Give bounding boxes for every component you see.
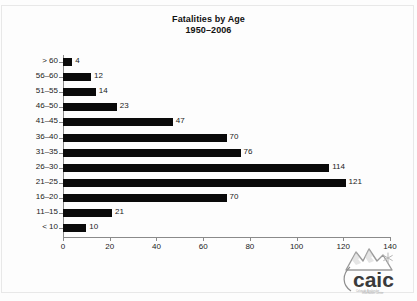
bar [63, 194, 227, 202]
bar-row: < 1010 [63, 221, 390, 236]
x-axis-tick-label: 40 [141, 242, 171, 252]
y-axis-tick [59, 107, 63, 108]
category-label: 46–50 [36, 101, 58, 111]
x-axis-tick-label: 60 [188, 242, 218, 252]
plot-area: > 60456–601251–551446–502341–454736–4070… [63, 55, 390, 237]
page-title: Fatalities by Age [0, 14, 417, 25]
x-axis-line [63, 237, 391, 238]
y-axis-tick [59, 62, 63, 63]
bar-value-label: 76 [244, 147, 253, 157]
bar [63, 134, 227, 142]
bar-value-label: 12 [94, 71, 103, 81]
x-axis-tick [390, 237, 391, 241]
bar-value-label: 21 [115, 207, 124, 217]
y-axis-tick [59, 168, 63, 169]
y-axis-tick [59, 228, 63, 229]
y-axis-tick [59, 213, 63, 214]
bar-row: 56–6012 [63, 70, 390, 85]
y-axis-tick [59, 92, 63, 93]
y-axis-tick [59, 138, 63, 139]
bar [63, 164, 329, 172]
bar [63, 149, 241, 157]
bar-value-label: 121 [349, 177, 362, 187]
bar [63, 224, 86, 232]
category-label: 36–40 [36, 132, 58, 142]
chart-title-block: Fatalities by Age 1950–2006 [0, 14, 417, 36]
x-axis-tick [250, 237, 251, 241]
bar-row: 26–30114 [63, 161, 390, 176]
logo-wordmark: caic [353, 268, 394, 291]
y-axis-tick [59, 153, 63, 154]
bar-value-label: 70 [230, 192, 239, 202]
category-label: 11–15 [36, 207, 58, 217]
bar-row: 51–5514 [63, 85, 390, 100]
bar-row: 41–4547 [63, 115, 390, 130]
x-axis-tick-label: 0 [48, 242, 78, 252]
bar-value-label: 114 [332, 162, 345, 172]
bar [63, 179, 346, 187]
x-axis-tick-label: 120 [328, 242, 358, 252]
category-label: 16–20 [36, 192, 58, 202]
y-axis-tick [59, 198, 63, 199]
category-label: 21–25 [36, 177, 58, 187]
x-axis-tick [297, 237, 298, 241]
x-axis-tick-label: 140 [375, 242, 405, 252]
bar [63, 88, 96, 96]
bar-value-label: 4 [75, 56, 79, 66]
bar-value-label: 10 [89, 222, 98, 232]
bar [63, 209, 112, 217]
x-axis-tick [343, 237, 344, 241]
x-axis-tick [203, 237, 204, 241]
y-axis-tick [59, 183, 63, 184]
bar-row: 16–2070 [63, 191, 390, 206]
bar-value-label: 70 [230, 132, 239, 142]
category-label: 51–55 [36, 86, 58, 96]
bar-row: 31–3576 [63, 146, 390, 161]
bar-value-label: 14 [99, 86, 108, 96]
bar [63, 58, 72, 66]
bar [63, 103, 117, 111]
bar [63, 73, 91, 81]
bar-row: 11–1521 [63, 206, 390, 221]
category-label: < 10 [42, 222, 58, 232]
y-axis-tick [59, 122, 63, 123]
y-axis-tick [59, 77, 63, 78]
x-axis-tick [110, 237, 111, 241]
x-axis-tick-label: 80 [235, 242, 265, 252]
chart-canvas: Fatalities by Age 1950–2006 > 60456–6012… [0, 0, 417, 301]
x-axis-tick [63, 237, 64, 241]
bar-row: > 604 [63, 55, 390, 70]
bar-row: 21–25121 [63, 176, 390, 191]
category-label: 41–45 [36, 116, 58, 126]
chart-subtitle: 1950–2006 [0, 25, 417, 36]
bar-value-label: 23 [120, 101, 129, 111]
category-label: > 60 [42, 56, 58, 66]
x-axis-tick [156, 237, 157, 241]
bar-value-label: 47 [176, 116, 185, 126]
category-label: 31–35 [36, 147, 58, 157]
bar-row: 46–5023 [63, 100, 390, 115]
category-label: 26–30 [36, 162, 58, 172]
logo-tagline-2: Information Center [362, 291, 384, 295]
category-label: 56–60 [36, 71, 58, 81]
x-axis-tick-label: 20 [95, 242, 125, 252]
x-axis-tick-label: 100 [282, 242, 312, 252]
bar-row: 36–4070 [63, 131, 390, 146]
bar [63, 118, 173, 126]
